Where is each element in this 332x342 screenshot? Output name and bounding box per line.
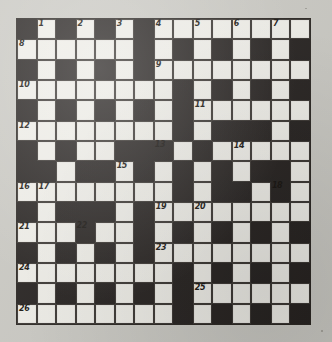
grid-cell-light[interactable] [95,182,115,202]
grid-cell-light[interactable] [232,263,252,283]
grid-cell-light[interactable] [76,141,96,161]
grid-cell-light[interactable] [232,161,252,181]
grid-cell-light[interactable]: 20 [193,202,213,222]
grid-cell-light[interactable] [95,121,115,141]
grid-cell-light[interactable] [290,60,310,80]
grid-cell-light[interactable] [76,243,96,263]
grid-cell-light[interactable] [271,39,291,59]
grid-cell-light[interactable] [76,60,96,80]
grid-cell-light[interactable] [154,263,174,283]
grid-cell-light[interactable] [56,182,76,202]
grid-cell-light[interactable] [251,60,271,80]
grid-cell-light[interactable] [37,304,57,324]
grid-cell-light[interactable] [76,121,96,141]
grid-cell-light[interactable] [290,100,310,120]
grid-cell-light[interactable] [193,222,213,242]
grid-cell-light[interactable] [76,80,96,100]
grid-cell-light[interactable] [134,121,154,141]
grid-cell-light[interactable] [154,304,174,324]
grid-cell-light[interactable] [271,60,291,80]
grid-cell-light[interactable]: 19 [154,202,174,222]
grid-cell-light[interactable] [134,80,154,100]
grid-cell-light[interactable] [251,202,271,222]
grid-cell-light[interactable] [193,60,213,80]
grid-cell-light[interactable]: 2 [76,19,96,39]
grid-cell-light[interactable] [56,304,76,324]
grid-cell-light[interactable] [212,141,232,161]
grid-cell-light[interactable] [271,304,291,324]
grid-cell-light[interactable] [56,263,76,283]
grid-cell-light[interactable] [271,222,291,242]
grid-cell-light[interactable] [232,39,252,59]
grid-cell-light[interactable] [290,202,310,222]
grid-cell-light[interactable] [290,141,310,161]
grid-cell-light[interactable]: 3 [115,19,135,39]
grid-cell-light[interactable] [115,100,135,120]
grid-cell-light[interactable] [251,182,271,202]
grid-cell-light[interactable] [115,80,135,100]
grid-cell-light[interactable] [173,60,193,80]
grid-cell-light[interactable] [290,19,310,39]
grid-cell-light[interactable] [232,202,252,222]
grid-cell-light[interactable] [212,19,232,39]
grid-cell-light[interactable] [212,283,232,303]
grid-cell-light[interactable]: 21 [17,222,37,242]
crossword-grid[interactable]: 1234567891011121314151617181920212223242… [16,18,311,325]
grid-cell-light[interactable] [154,80,174,100]
grid-cell-light[interactable] [290,182,310,202]
grid-cell-light[interactable] [95,304,115,324]
grid-cell-light[interactable] [193,161,213,181]
grid-cell-light[interactable] [95,80,115,100]
grid-cell-light[interactable]: 5 [193,19,213,39]
grid-cell-light[interactable] [193,80,213,100]
grid-cell-light[interactable] [134,182,154,202]
grid-cell-light[interactable] [173,19,193,39]
grid-cell-light[interactable] [37,141,57,161]
grid-cell-light[interactable] [37,121,57,141]
grid-cell-light[interactable] [76,283,96,303]
grid-cell-light[interactable] [232,80,252,100]
grid-cell-light[interactable] [37,100,57,120]
grid-cell-light[interactable] [193,243,213,263]
grid-cell-light[interactable] [232,60,252,80]
grid-cell-light[interactable] [193,304,213,324]
grid-cell-light[interactable] [212,60,232,80]
grid-cell-light[interactable] [115,283,135,303]
grid-cell-light[interactable] [115,182,135,202]
grid-cell-light[interactable] [251,19,271,39]
grid-cell-light[interactable] [271,141,291,161]
grid-cell-light[interactable]: 12 [17,121,37,141]
grid-cell-light[interactable] [232,222,252,242]
grid-cell-light[interactable] [271,100,291,120]
grid-cell-light[interactable] [193,121,213,141]
grid-cell-light[interactable] [290,243,310,263]
grid-cell-light[interactable] [212,100,232,120]
grid-cell-light[interactable] [193,182,213,202]
grid-cell-light[interactable] [271,80,291,100]
grid-cell-light[interactable]: 23 [154,243,174,263]
grid-cell-light[interactable] [232,283,252,303]
grid-cell-light[interactable] [56,161,76,181]
grid-cell-light[interactable] [173,141,193,161]
grid-cell-light[interactable] [154,161,174,181]
grid-cell-light[interactable]: 17 [37,182,57,202]
grid-cell-light[interactable] [232,100,252,120]
grid-cell-light[interactable] [251,141,271,161]
grid-cell-light[interactable] [115,243,135,263]
grid-cell-light[interactable] [115,39,135,59]
grid-cell-light[interactable] [251,243,271,263]
grid-cell-light[interactable] [95,222,115,242]
grid-cell-light[interactable] [173,243,193,263]
grid-cell-light[interactable]: 24 [17,263,37,283]
grid-cell-light[interactable] [37,243,57,263]
grid-cell-light[interactable] [212,202,232,222]
grid-cell-light[interactable] [56,222,76,242]
grid-cell-light[interactable] [115,60,135,80]
grid-cell-light[interactable]: 25 [193,283,213,303]
grid-cell-light[interactable] [37,80,57,100]
grid-cell-light[interactable] [37,222,57,242]
grid-cell-light[interactable] [212,243,232,263]
grid-cell-light[interactable] [290,161,310,181]
grid-cell-light[interactable] [37,60,57,80]
grid-cell-light[interactable] [115,121,135,141]
